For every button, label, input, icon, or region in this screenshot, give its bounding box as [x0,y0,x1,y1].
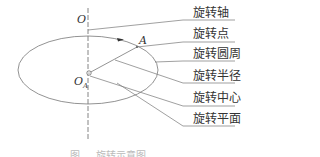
radius-line [89,47,137,73]
label-rotation-radius: 旋转半径 [193,70,241,82]
point-label-o: O [77,14,86,25]
point-label-oa-main: O [74,75,83,88]
figure-caption: 图 … 旋转示意图 [70,147,146,157]
label-rotation-circumference: 旋转圆周 [193,48,241,60]
leader-circumference [155,61,235,62]
point-label-oa: OA [74,76,88,92]
label-rotation-point: 旋转点 [193,28,229,40]
label-rotation-axis: 旋转轴 [193,7,229,19]
direction-arrow-icon [117,38,124,42]
label-rotation-center: 旋转中心 [193,92,241,104]
point-label-oa-sub: A [83,82,88,90]
label-rotation-plane: 旋转平面 [193,113,241,125]
point-label-a: A [139,35,147,46]
